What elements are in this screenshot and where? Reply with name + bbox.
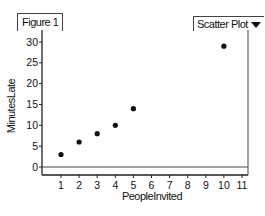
x-tick-label: 4 [112, 179, 118, 191]
y-tick-label: 20 [26, 77, 38, 89]
data-point [77, 139, 82, 144]
data-point [221, 44, 226, 49]
data-point [58, 152, 63, 157]
x-tick-label: 8 [185, 179, 191, 191]
axes: 0510152025301234567891011 [26, 30, 248, 191]
data-points [58, 44, 226, 158]
x-tick-label: 9 [203, 179, 209, 191]
data-point [113, 123, 118, 128]
data-point [95, 131, 100, 136]
y-tick-label: 0 [32, 161, 38, 173]
y-tick-label: 15 [26, 98, 38, 110]
x-tick-label: 1 [58, 179, 64, 191]
x-tick-label: 2 [76, 179, 82, 191]
y-tick-label: 25 [26, 56, 38, 68]
scatter-chart: 0510152025301234567891011 PeopleInvited … [0, 0, 265, 216]
y-tick-label: 30 [26, 36, 38, 48]
x-tick-label: 11 [237, 179, 248, 191]
y-tick-label: 5 [32, 140, 38, 152]
y-axis-title: MinutesLate [5, 78, 17, 133]
y-tick-label: 10 [26, 119, 38, 131]
data-point [131, 106, 136, 111]
x-tick-label: 10 [218, 179, 230, 191]
x-tick-label: 3 [94, 179, 100, 191]
x-axis-title: PeopleInvited [122, 190, 183, 202]
